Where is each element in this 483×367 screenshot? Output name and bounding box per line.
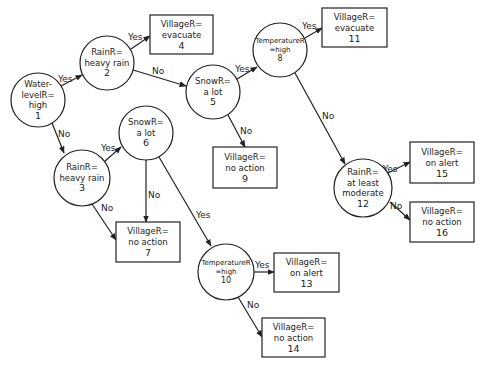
edge-6-to-7: No (146, 160, 161, 222)
edge-label: Yes (234, 64, 250, 74)
edge-1-to-2: Yes (57, 74, 82, 86)
node-label-line: VillageR= (286, 257, 328, 267)
decision-node-5: SnowR=a lot5 (186, 65, 240, 119)
node-number: 8 (277, 54, 282, 63)
node-label-line: a lot (204, 87, 223, 97)
node-number: 3 (79, 182, 85, 193)
edge-label: No (148, 190, 161, 200)
node-number: 1 (35, 110, 41, 121)
edge-label: Yes (57, 74, 73, 84)
node-label-line: VillageR= (421, 147, 463, 157)
edge-label: No (322, 111, 335, 121)
node-number: 5 (210, 96, 216, 107)
node-number: 10 (221, 276, 231, 285)
node-number: 15 (436, 168, 448, 179)
node-label-line: VillageR= (421, 206, 463, 216)
decision-node-12: RainR=at leastmoderate12 (334, 159, 392, 217)
node-label-line: heavy rain (59, 173, 104, 183)
node-number: 16 (436, 227, 448, 238)
node-label-line: VillageR= (127, 226, 169, 236)
node-label-line: on alert (290, 268, 324, 278)
node-label-line: heavy rain (84, 58, 129, 68)
node-label-line: TemperatureR (254, 37, 304, 45)
leaf-node-4: VillageR=evacuate4 (150, 15, 213, 54)
node-number: 9 (242, 173, 248, 184)
leaf-node-15: VillageR=on alert15 (410, 142, 474, 183)
leaf-node-11: VillageR=evacuate11 (322, 8, 387, 47)
edge-1-to-3: No (52, 123, 71, 153)
decision-node-2: RainR=heavy rain2 (80, 36, 134, 90)
edge-label: Yes (254, 260, 270, 270)
arrow-icon (295, 73, 345, 164)
node-number: 11 (348, 33, 360, 44)
edge-5-to-8: Yes (234, 64, 257, 79)
node-label-line: no action (128, 237, 167, 247)
edge-label: No (390, 201, 403, 211)
decision-node-8: TemperatureR=high8 (253, 23, 307, 77)
node-label-line: RainR= (347, 167, 379, 177)
edge-10-to-13: Yes (254, 260, 274, 272)
edge-2-to-4: Yes (127, 32, 150, 49)
node-label-line: =high (269, 46, 290, 54)
node-label-line: VillageR= (273, 322, 315, 332)
decision-node-1: Water-levelR=high1 (11, 73, 65, 127)
node-label-line: at least (347, 178, 379, 188)
node-label-line: VillageR= (334, 12, 376, 22)
decision-node-3: RainR=heavy rain3 (54, 150, 110, 206)
decision-node-10: TemperatureR=high10 (198, 244, 254, 300)
edge-3-to-7: No (92, 203, 116, 240)
leaf-node-13: VillageR=on alert13 (274, 253, 339, 292)
node-label-line: SnowR= (195, 76, 231, 86)
edge-label: No (240, 126, 253, 136)
node-label-line: RainR= (91, 47, 123, 57)
node-label-line: =high (215, 268, 236, 276)
node-label-line: levelR= (21, 90, 54, 100)
node-label-line: VillageR= (224, 152, 266, 162)
edge-label: No (152, 66, 165, 76)
edge-label: Yes (195, 210, 211, 220)
node-label-line: no action (225, 163, 264, 173)
edge-label: No (247, 300, 260, 310)
node-label-line: on alert (426, 158, 460, 168)
leaf-node-14: VillageR=no action14 (262, 318, 325, 357)
node-number: 14 (287, 343, 299, 354)
node-label-line: evacuate (162, 30, 201, 40)
leaf-node-9: VillageR=no action9 (213, 147, 277, 188)
node-number: 13 (300, 278, 312, 289)
edge-5-to-9: No (228, 115, 253, 147)
edge-2-to-5: No (133, 66, 186, 86)
decision-node-6: SnowR=a lot6 (119, 106, 173, 160)
node-label-line: moderate (342, 188, 383, 198)
leaf-node-7: VillageR=no action7 (116, 222, 180, 262)
edge-label: No (101, 203, 114, 213)
edge-12-to-16: No (390, 201, 410, 220)
node-label-line: VillageR= (161, 19, 203, 29)
node-label-line: RainR= (66, 162, 98, 172)
node-label-line: no action (422, 217, 461, 227)
node-label-line: SnowR= (128, 117, 164, 127)
edge-label: Yes (301, 21, 317, 31)
node-label-line: Water- (24, 79, 52, 89)
edge-label: No (58, 129, 71, 139)
leaf-node-16: VillageR=no action16 (410, 202, 474, 242)
decision-tree-diagram: YesNoYesNoYesNoYesNoNoYesYesNoYesNoYesNo… (0, 0, 483, 367)
edge-label: Yes (127, 32, 143, 42)
node-number: 2 (104, 67, 110, 78)
node-label-line: a lot (137, 128, 156, 138)
edge-10-to-14: No (238, 297, 262, 337)
edge-label: Yes (100, 143, 116, 153)
node-number: 6 (143, 137, 149, 148)
node-number: 12 (357, 198, 369, 209)
edge-8-to-11: Yes (301, 21, 322, 38)
node-label-line: high (29, 100, 48, 110)
node-number: 4 (178, 40, 184, 51)
node-number: 7 (145, 247, 151, 258)
edge-8-to-12: No (295, 73, 345, 164)
node-label-line: no action (274, 333, 313, 343)
node-label-line: evacuate (335, 23, 374, 33)
node-label-line: TemperatureR (200, 259, 250, 267)
